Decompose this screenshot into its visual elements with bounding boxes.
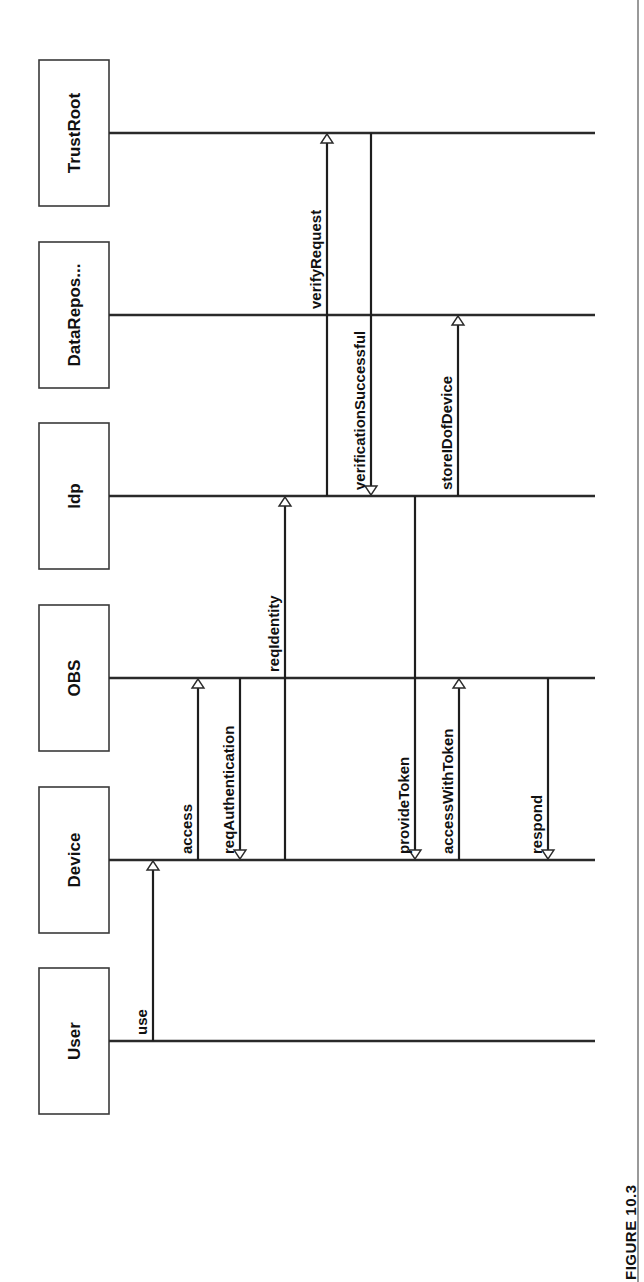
- actor-idp: Idp: [39, 423, 595, 569]
- message-accesswithtoken: accessWithToken: [439, 679, 465, 860]
- arrowhead-icon: [192, 679, 204, 688]
- actor-label: DataRepos...: [65, 264, 84, 367]
- message-label: use: [133, 1009, 150, 1035]
- message-label: accessWithToken: [439, 729, 456, 854]
- message-label: storeIDofDevice: [438, 376, 455, 490]
- actor-label: TrustRoot: [65, 93, 84, 174]
- arrowhead-icon: [453, 679, 465, 688]
- message-label: verifyRequest: [307, 210, 324, 309]
- message-storeidofdevice: storeIDofDevice: [438, 316, 464, 496]
- arrowhead-icon: [321, 134, 333, 143]
- sequence-diagram: TrustRootDataRepos...IdpOBSDeviceUser us…: [0, 0, 644, 1282]
- arrowhead-icon: [279, 497, 291, 506]
- actor-trustroot: TrustRoot: [39, 60, 595, 206]
- actor-label: User: [65, 1022, 84, 1060]
- messages-layer: useaccessreqAuthenticationreqIdentityver…: [133, 133, 554, 1041]
- message-access: access: [178, 679, 204, 860]
- message-use: use: [133, 861, 159, 1041]
- message-label: provideToken: [395, 757, 412, 854]
- message-respond: respond: [528, 678, 554, 859]
- message-label: reqIdentity: [265, 595, 282, 672]
- actor-label: OBS: [65, 660, 84, 697]
- arrowhead-icon: [147, 861, 159, 870]
- message-label: reqAuthentication: [220, 726, 237, 854]
- message-reqauthentication: reqAuthentication: [220, 678, 246, 859]
- actor-label: Idp: [65, 483, 84, 509]
- actor-user: User: [39, 968, 595, 1114]
- actor-label: Device: [65, 833, 84, 888]
- actor-obs: OBS: [39, 605, 595, 751]
- message-label: respond: [528, 795, 545, 854]
- message-label: verificationSuccessful: [351, 331, 368, 490]
- arrowhead-icon: [452, 316, 464, 325]
- figure-caption: FIGURE 10.3: [622, 1184, 639, 1280]
- actor-device: Device: [39, 787, 595, 933]
- message-label: access: [178, 804, 195, 854]
